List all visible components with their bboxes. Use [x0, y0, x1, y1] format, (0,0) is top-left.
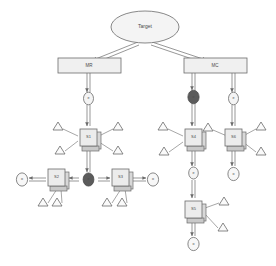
edge-bar-right-to-g3 — [232, 73, 235, 92]
node-s4[interactable]: S4 — [185, 129, 206, 151]
terminal-right[interactable]: o — [147, 173, 158, 186]
gate-g4-label: e — [88, 177, 90, 181]
root-node-label: Target — [138, 23, 153, 29]
triangle-icon — [158, 122, 168, 130]
terminal-right-label: o — [152, 177, 154, 181]
node-s4-label: S4 — [191, 134, 197, 139]
node-s6[interactable]: S6 — [225, 129, 246, 151]
node-s1[interactable]: S1 — [80, 129, 101, 151]
edge-g4-to-s2 — [69, 178, 79, 181]
triangle-icon — [113, 146, 123, 154]
triangle-icon — [117, 198, 127, 206]
triangle-icon — [38, 198, 48, 206]
terminal-bottom-right-label: o — [233, 172, 235, 176]
edge-s3-to-terminal-right — [133, 178, 146, 181]
terminal-bottom-right[interactable]: o — [228, 167, 239, 180]
bar-left-label: MR — [86, 63, 94, 68]
diagram-canvas: Target MR MC e e e e e — [0, 0, 276, 266]
triangle-icon — [52, 198, 62, 206]
edge-g2-to-s4 — [192, 104, 195, 126]
root-node[interactable]: Target — [111, 11, 179, 43]
triangle-icon — [55, 146, 65, 154]
edge-g1-to-s1 — [87, 105, 90, 126]
edge-g3-to-s6 — [232, 105, 235, 126]
bar-right[interactable]: MC — [184, 58, 247, 73]
edge-bar-right-to-g2 — [192, 73, 195, 90]
terminal-left-label: o — [21, 177, 23, 181]
edge-s5-to-terminal-bottom-mid — [192, 222, 195, 236]
gate-g5[interactable]: e — [189, 167, 199, 179]
node-s1-label: S1 — [86, 134, 92, 139]
node-s5[interactable]: S5 — [185, 201, 206, 223]
triangle-icon — [256, 122, 266, 130]
edge-s6-to-terminal-bottom-right — [232, 150, 235, 166]
gate-g2[interactable]: e — [188, 90, 199, 104]
terminal-left[interactable]: o — [16, 173, 27, 186]
edge-g4-to-s3 — [98, 178, 110, 181]
gate-g2-label: e — [193, 95, 195, 99]
triangle-icon — [256, 147, 266, 155]
bar-right-label: MC — [212, 63, 220, 68]
triangle-icon — [53, 122, 63, 130]
node-s3[interactable]: S3 — [112, 169, 133, 191]
edge-bar-left-to-g1 — [87, 73, 90, 92]
edge-s2-to-terminal-left — [29, 178, 46, 181]
diagram-svg: Target MR MC e e e e e — [0, 0, 276, 266]
triangle-icon — [218, 223, 228, 231]
edge-g5-to-s5 — [192, 180, 195, 198]
terminal-bottom-mid-label: o — [193, 242, 195, 246]
node-s5-label: S5 — [191, 206, 197, 211]
node-s6-label: S6 — [231, 134, 237, 139]
gate-g4[interactable]: e — [83, 173, 94, 186]
triangle-icon — [219, 197, 229, 205]
gate-g1-label: e — [88, 96, 90, 100]
terminal-bottom-mid[interactable]: o — [188, 237, 199, 250]
bar-left[interactable]: MR — [58, 58, 121, 73]
triangle-icon — [102, 198, 112, 206]
node-s2-label: S2 — [54, 174, 60, 179]
node-s3-label: S3 — [118, 174, 124, 179]
gate-g3[interactable]: e — [229, 92, 239, 105]
edge-s1-to-g4 — [87, 150, 90, 172]
triangle-icon — [113, 122, 123, 130]
gate-g1[interactable]: e — [84, 92, 94, 105]
triangle-icon — [159, 147, 169, 155]
gate-g3-label: e — [233, 96, 235, 100]
triangle-icon — [203, 123, 213, 131]
edge-s4-to-g5 — [192, 150, 195, 166]
gate-g5-label: e — [193, 171, 195, 175]
node-s2[interactable]: S2 — [48, 169, 69, 191]
